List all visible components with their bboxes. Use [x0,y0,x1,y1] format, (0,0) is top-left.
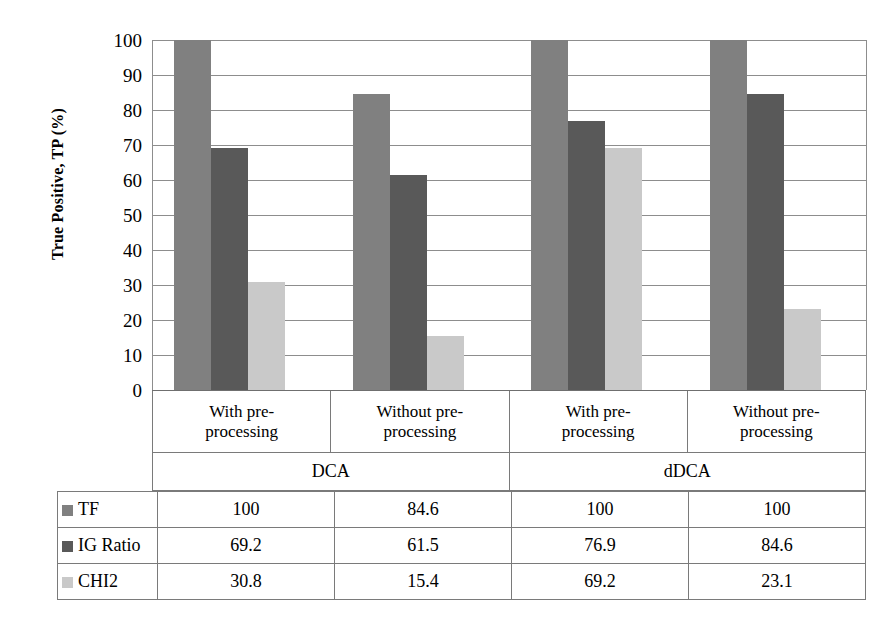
bar-tf[interactable] [710,40,747,390]
category-label-line: Without pre- [733,402,820,422]
bar-chart-figure: True Positive, TP (%) 100908070605040302… [0,0,895,625]
table-cell: 61.5 [335,528,512,564]
y-axis-tick-label: 90 [123,66,142,85]
bar-group [331,40,510,390]
super-category-band: DCAdDCA [152,453,866,491]
table-row: IG Ratio69.261.576.984.6 [58,528,866,564]
table-row: TF10084.6100100 [58,492,866,528]
category-label-line: processing [562,422,635,442]
data-table: TF10084.6100100IG Ratio69.261.576.984.6C… [57,491,866,600]
y-axis-tick-label: 60 [123,171,142,190]
bar-tf[interactable] [353,94,390,390]
category-label-line: With pre- [562,402,635,422]
table-cell: 76.9 [512,528,689,564]
table-row-header: IG Ratio [58,528,158,564]
y-axis-tick-label: 50 [123,206,142,225]
category-label-line: processing [733,422,820,442]
y-axis-tick-label: 70 [123,136,142,155]
super-category-label: dDCA [510,453,866,490]
bar-tf[interactable] [531,40,568,390]
category-label-band: With pre-processingWithout pre-processin… [152,391,866,453]
y-axis-tick-label: 30 [123,276,142,295]
bar-chi2[interactable] [248,282,285,390]
table-row-header: CHI2 [58,564,158,600]
category-label-text: With pre-processing [205,402,278,441]
table-cell: 84.6 [689,528,866,564]
bar-groups [152,40,866,390]
table-row-header: TF [58,492,158,528]
table-cell: 69.2 [512,564,689,600]
y-axis-tick-label: 100 [114,31,143,50]
y-axis-tick-label: 80 [123,101,142,120]
bar-chi2[interactable] [605,148,642,390]
legend-label: CHI2 [78,571,118,591]
y-axis-tick-label: 40 [123,241,142,260]
plot-spine [866,40,867,390]
bar-ig-ratio[interactable] [568,121,605,390]
legend-swatch-icon [62,505,73,516]
bar-chi2[interactable] [427,336,464,390]
table-cell: 69.2 [158,528,335,564]
y-axis-tick-label: 20 [123,311,142,330]
category-label-line: Without pre- [377,402,464,422]
category-label: With pre-processing [153,391,331,452]
category-label-text: Without pre-processing [377,402,464,441]
bar-ig-ratio[interactable] [390,175,427,390]
bar-group [509,40,688,390]
category-label-line: With pre- [205,402,278,422]
y-axis-tick-label: 10 [123,346,142,365]
bar-tf[interactable] [174,40,211,390]
category-label: Without pre-processing [688,391,865,452]
bar-ig-ratio[interactable] [211,148,248,390]
table-cell: 100 [689,492,866,528]
category-label-line: processing [377,422,464,442]
y-axis-tick-label: 0 [133,381,143,400]
category-label: Without pre-processing [331,391,509,452]
category-label-text: With pre-processing [562,402,635,441]
bar-group [688,40,867,390]
bar-ig-ratio[interactable] [747,94,784,390]
table-cell: 15.4 [335,564,512,600]
category-label: With pre-processing [510,391,688,452]
bar-group [152,40,331,390]
table-cell: 84.6 [335,492,512,528]
table-cell: 30.8 [158,564,335,600]
bar-chi2[interactable] [784,309,821,390]
category-label-line: processing [205,422,278,442]
y-axis-title: True Positive, TP (%) [49,34,67,334]
plot-spine [152,40,153,390]
table-row: CHI230.815.469.223.1 [58,564,866,600]
plot-area: 1009080706050403020100 [152,40,866,390]
category-label-text: Without pre-processing [733,402,820,441]
legend-swatch-icon [62,541,73,552]
legend-swatch-icon [62,577,73,588]
data-table-body: TF10084.6100100IG Ratio69.261.576.984.6C… [58,492,866,600]
legend-label: TF [78,499,99,519]
legend-label: IG Ratio [78,535,141,555]
table-cell: 100 [158,492,335,528]
table-cell: 23.1 [689,564,866,600]
table-cell: 100 [512,492,689,528]
super-category-label: DCA [153,453,510,490]
